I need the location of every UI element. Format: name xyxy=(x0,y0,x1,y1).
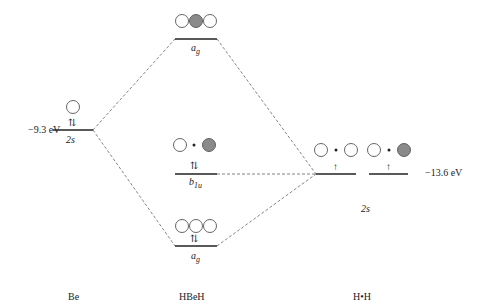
lobe-hh-minus-nucleus xyxy=(388,149,391,152)
column-label-hbeh: HBeH xyxy=(179,292,205,302)
lobe-b1u-1 xyxy=(174,139,187,152)
hh-plus-electrons: ↑ xyxy=(333,162,338,172)
lobe-hh-plus-nucleus xyxy=(335,149,338,152)
corr-be-to-ag-upper xyxy=(93,39,175,130)
lobe-b1u-nucleus xyxy=(193,144,196,147)
hh-minus-electrons: ↑ xyxy=(386,162,391,172)
lobe-hh-minus-1 xyxy=(368,144,381,157)
be-energy-label: −9.3 eV xyxy=(28,125,60,135)
hh-orbital-label: 2s xyxy=(361,204,370,214)
lobe-hh-plus-2 xyxy=(345,144,358,157)
lobe-ag-upper-2 xyxy=(190,15,203,28)
mo-diagram-canvas xyxy=(0,0,478,307)
lobe-hh-minus-2 xyxy=(398,144,411,157)
orbital-lobes xyxy=(67,15,411,233)
lobe-be-2s xyxy=(67,101,80,114)
b1u-electrons: ⇅ xyxy=(190,161,198,171)
b1u-label: b1u xyxy=(189,177,202,190)
ag-lower-label: ag xyxy=(191,251,200,264)
column-label-be: Be xyxy=(68,292,79,302)
lobe-ag-lower-1 xyxy=(176,220,189,233)
be-electrons: ⇅ xyxy=(68,118,76,128)
lobe-b1u-2 xyxy=(203,139,216,152)
corr-ag-upper-to-hh xyxy=(217,39,316,174)
lobe-ag-upper-1 xyxy=(176,15,189,28)
lobe-ag-upper-3 xyxy=(204,15,217,28)
lobe-ag-lower-2 xyxy=(190,220,203,233)
corr-ag-lower-to-hh xyxy=(217,174,316,246)
ag-upper-label: ag xyxy=(191,43,200,56)
hh-energy-label: −13.6 eV xyxy=(425,168,462,178)
ag-lower-electrons: ⇅ xyxy=(190,234,198,244)
be-orbital-label: 2s xyxy=(66,135,75,145)
column-label-hh: H•H xyxy=(353,292,371,302)
lobe-hh-plus-1 xyxy=(315,144,328,157)
energy-levels xyxy=(53,39,408,246)
corr-be-to-ag-lower xyxy=(93,130,175,246)
lobe-ag-lower-3 xyxy=(204,220,217,233)
